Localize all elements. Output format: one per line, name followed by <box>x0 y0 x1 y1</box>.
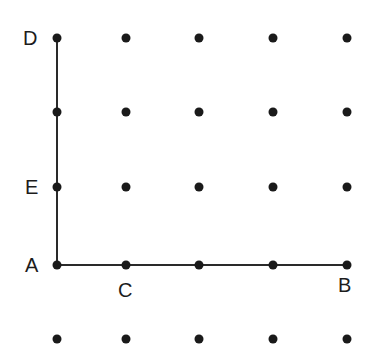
grid-dot-r3-c3 <box>269 261 278 270</box>
label-A: A <box>25 254 39 276</box>
grid-dot-r1-c1 <box>122 108 131 117</box>
grid-dot-r0-c4 <box>343 34 352 43</box>
point-labels: D E A C B <box>23 27 351 301</box>
grid-dot-r1-c0 <box>53 108 62 117</box>
label-B: B <box>338 274 351 296</box>
grid-dot-r4-c2 <box>195 335 204 344</box>
dot-grid-diagram: D E A C B <box>0 0 378 350</box>
grid-dot-r2-c4 <box>343 183 352 192</box>
segments <box>57 38 347 265</box>
grid-dot-r0-c0 <box>53 34 62 43</box>
grid-dot-r0-c3 <box>269 34 278 43</box>
grid-dot-r1-c4 <box>343 108 352 117</box>
grid-dot-r3-c0 <box>53 261 62 270</box>
grid-dot-r2-c3 <box>269 183 278 192</box>
grid-dot-r3-c1 <box>122 261 131 270</box>
grid-dot-r4-c1 <box>122 335 131 344</box>
grid-dot-r4-c3 <box>269 335 278 344</box>
grid-dot-r0-c2 <box>195 34 204 43</box>
grid-dots <box>53 34 352 344</box>
grid-dot-r2-c2 <box>195 183 204 192</box>
label-D: D <box>23 27 37 49</box>
grid-dot-r3-c2 <box>195 261 204 270</box>
grid-dot-r0-c1 <box>122 34 131 43</box>
grid-dot-r1-c3 <box>269 108 278 117</box>
label-E: E <box>25 176 38 198</box>
grid-dot-r3-c4 <box>343 261 352 270</box>
grid-dot-r2-c1 <box>122 183 131 192</box>
grid-dot-r4-c4 <box>343 335 352 344</box>
grid-dot-r2-c0 <box>53 183 62 192</box>
label-C: C <box>118 279 132 301</box>
grid-dot-r1-c2 <box>195 108 204 117</box>
grid-dot-r4-c0 <box>53 335 62 344</box>
